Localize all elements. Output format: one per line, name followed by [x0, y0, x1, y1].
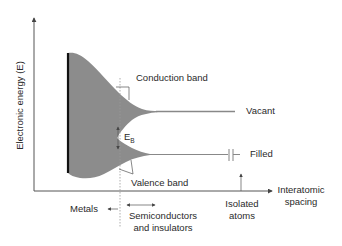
isolated-atoms-label: Isolated atoms: [222, 198, 262, 222]
conduction-band-label: Conduction band: [136, 72, 208, 84]
x-axis-label: Interatomic spacing: [273, 184, 329, 208]
semiconductors-label-line1: Semiconductors: [126, 210, 200, 222]
valence-band-label: Valence band: [131, 177, 188, 189]
semiconductors-label-line2: and insulators: [126, 222, 200, 234]
isolated-atoms-label-line1: Isolated: [222, 198, 262, 210]
x-axis-label-line1: Interatomic: [273, 184, 329, 196]
y-axis-label: Electronic energy (E): [14, 51, 25, 161]
valence-band-pointer: [119, 169, 133, 174]
semiconductors-label: Semiconductors and insulators: [126, 210, 200, 234]
valence-band-pointer: [131, 160, 133, 174]
filled-label: Filled: [250, 148, 273, 160]
band-gap-label: EB: [124, 131, 135, 147]
x-axis-label-line2: spacing: [273, 196, 329, 208]
vacant-label: Vacant: [246, 105, 275, 117]
band-gap-label-sub: B: [130, 137, 134, 144]
isolated-atoms-label-line2: atoms: [222, 210, 262, 222]
metals-label: Metals: [70, 203, 98, 215]
